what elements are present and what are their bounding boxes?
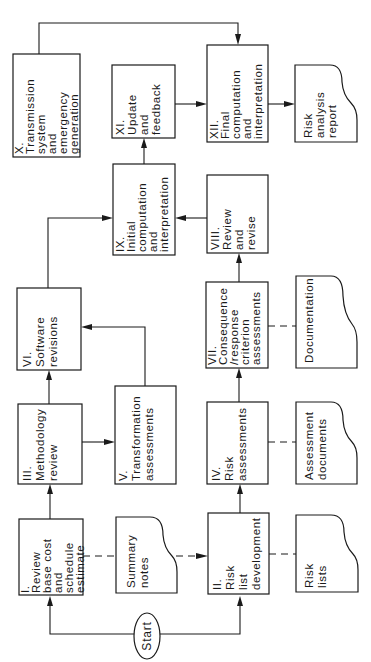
arrowhead-into-vi [46, 370, 52, 380]
document-label: Documentation [303, 278, 315, 363]
arrowhead-into-i [47, 596, 53, 606]
process-iii-methodology-review[interactable]: III. Methodology review [18, 404, 82, 484]
arrowhead-into-iii [47, 484, 53, 494]
document-label: Assessment documents [303, 408, 328, 480]
arrowhead-into-v [104, 439, 115, 445]
arrowhead-into-xi [141, 138, 147, 148]
risk-analysis-flowchart: Start I. Review base cost and schedule e… [0, 0, 371, 662]
process-x-transmission-system[interactable]: X. Transmission system and emergency gen… [13, 54, 80, 157]
start-terminal[interactable]: Start [134, 613, 160, 659]
document-risk-lists[interactable]: Risk lists [296, 515, 358, 592]
process-xi-update-and-feedback[interactable]: XI. Update and feedback [112, 65, 175, 138]
process-ix-initial-computation[interactable]: IX. Initial computation and interpretati… [113, 164, 175, 255]
connector-vi-to-ix [48, 218, 105, 288]
arrowhead-into-vii [236, 368, 242, 378]
arrowhead-into-ix-right [175, 215, 186, 221]
arrowhead-into-xii-left [196, 101, 207, 107]
process-ii-risk-list-development[interactable]: II. Risk list development [208, 513, 269, 594]
process-xii-final-computation[interactable]: XII. Final computation and interpretatio… [207, 45, 268, 142]
connector-start-to-i [50, 604, 134, 634]
process-viii-review-and-revise[interactable]: VIII. Review and revise [207, 175, 268, 253]
arrowhead-into-viii [236, 253, 242, 263]
process-iv-risk-assessments[interactable]: IV. Risk assessments [207, 402, 268, 484]
arrowhead-into-xii-top [235, 34, 241, 45]
document-summary-notes[interactable]: Summary notes [116, 517, 177, 593]
document-documentation[interactable]: Documentation [296, 276, 357, 368]
process-v-transformation-assessments[interactable]: V. Transformation assessments [115, 386, 176, 484]
arrowhead-into-ix-left [102, 215, 113, 221]
process-vii-consequence-response-criterion[interactable]: VII. Consequence /response criterion ass… [206, 282, 268, 368]
connector-v-to-vi [89, 327, 145, 386]
process-vi-software-revisions[interactable]: VI. Software revisions [17, 288, 81, 370]
arrowhead-into-ii-dashed [196, 553, 208, 559]
document-assessment-documents[interactable]: Assessment documents [296, 402, 357, 484]
arrowhead-into-iv [237, 484, 243, 494]
start-label: Start [140, 621, 154, 650]
connector-start-to-ii [160, 604, 240, 634]
arrowhead-into-ii [237, 596, 243, 606]
process-i-review-base-cost[interactable]: I. Review base cost and schedule estimat… [19, 519, 86, 595]
arrowhead-into-vi-side [81, 324, 92, 330]
arrowhead-into-report [284, 101, 295, 107]
document-risk-analysis-report[interactable]: Risk analysis report [295, 65, 357, 142]
